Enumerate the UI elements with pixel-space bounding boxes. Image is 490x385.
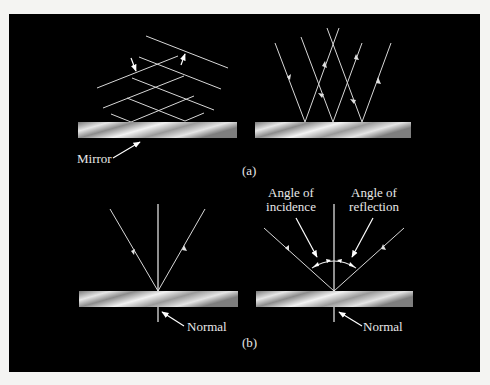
arrow-down-icon (131, 58, 136, 71)
arrow-icon (313, 262, 319, 267)
normal-pointer-arrow-icon (162, 312, 184, 326)
mirror-a-left (78, 122, 237, 138)
ray-arrowheads (287, 54, 381, 104)
arrow-icon (354, 54, 359, 60)
incidence-label-line1: Angle of (268, 185, 315, 200)
caption-a: (a) (242, 163, 256, 178)
reflection-label-line1: Angle of (351, 185, 398, 200)
caption-b: (b) (242, 335, 257, 350)
normal-label-right: Normal (363, 319, 403, 334)
arrow-icon (318, 93, 324, 98)
mirror-label: Mirror (77, 151, 112, 166)
arrow-icon (131, 249, 135, 255)
mirror-pointer-arrow-icon (113, 142, 140, 158)
arrow-icon (349, 262, 355, 267)
normal-pointer-arrow-icon (339, 312, 362, 326)
incidence-label-line2: incidence (266, 199, 316, 214)
reflection-label-line2: reflection (349, 199, 399, 214)
mirror-b-left (79, 291, 238, 307)
mirror-a-right (255, 122, 411, 138)
ray-lines (275, 28, 391, 122)
incidence-pointer-arrow-icon (296, 218, 317, 257)
mirror-b-right (256, 291, 413, 307)
reflection-diagram: Mirror (a) Normal Angle of incidence Ang… (0, 0, 490, 385)
reflection-pointer-arrow-icon (352, 218, 373, 257)
wavefront-lines (97, 36, 228, 122)
arrow-icon (285, 245, 289, 251)
arrow-up-icon (181, 54, 185, 65)
normal-label-left: Normal (187, 319, 227, 334)
